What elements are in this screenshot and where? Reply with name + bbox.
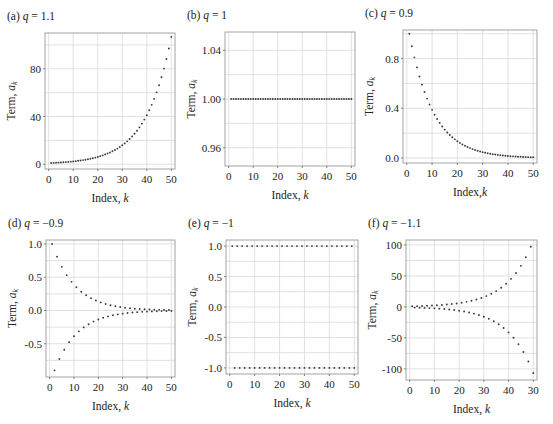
- x-tick-label: 30: [117, 173, 129, 185]
- x-axis-label: Index, k: [91, 192, 129, 205]
- x-tick-label: 30: [528, 384, 540, 396]
- x-tick-label: 20: [93, 381, 105, 393]
- x-tick-label: 10: [68, 381, 80, 393]
- x-tick-label: 0: [47, 381, 53, 393]
- y-tick-label: 80: [30, 63, 42, 75]
- x-axis-label: Index, k: [271, 189, 309, 202]
- y-tick-label: 100: [386, 239, 403, 251]
- panel-d: (d) q = −0.901020304050-0.50.00.51.0Inde…: [6, 217, 177, 413]
- x-tick-label: 0: [46, 173, 52, 185]
- x-tick-label: 30: [117, 381, 129, 393]
- x-tick-label: 50: [528, 167, 540, 179]
- x-tick-label: 40: [321, 170, 333, 182]
- y-tick-label: 0.8: [385, 53, 399, 65]
- y-tick-label: 0.0: [385, 152, 399, 164]
- y-tick-label: 0.5: [208, 271, 222, 283]
- y-axis-label: Term, ak: [6, 288, 20, 328]
- x-tick-label: 30: [477, 167, 489, 179]
- y-tick-label: 1.0: [208, 240, 222, 252]
- x-tick-label: 30: [297, 170, 309, 182]
- x-tick-label: 10: [427, 167, 439, 179]
- x-tick-label: 0: [226, 170, 232, 182]
- y-tick-label: -50: [387, 332, 402, 344]
- x-tick-label: 10: [429, 384, 441, 396]
- x-tick-label: 10: [249, 378, 261, 390]
- x-tick-label: 30: [478, 384, 490, 396]
- x-tick-label: 40: [141, 173, 153, 185]
- y-tick-label: 50: [391, 270, 403, 282]
- y-tick-label: 1.0: [28, 238, 42, 250]
- x-tick-label: 0: [227, 378, 233, 390]
- x-tick-label: 10: [248, 170, 260, 182]
- y-tick-label: 0.5: [28, 271, 42, 283]
- y-axis-label: Term, ak: [363, 76, 377, 116]
- x-tick-label: 40: [502, 167, 514, 179]
- x-tick-label: 40: [503, 384, 515, 396]
- y-axis-label: Term, ak: [186, 287, 200, 327]
- panel-b: (b) q = 1010203040500.961.001.04Index, k…: [185, 9, 357, 202]
- x-tick-label: 10: [68, 173, 80, 185]
- panel-title: (c) q = 0.9: [365, 7, 413, 20]
- geometric-sequence-figure: (a) q = 1.10102030405004080Index, kTerm,…: [0, 0, 553, 424]
- x-tick-label: 50: [166, 381, 178, 393]
- x-tick-label: 30: [299, 378, 311, 390]
- y-tick-label: -1.0: [205, 362, 223, 374]
- x-axis-label: Index, k: [92, 400, 130, 413]
- x-axis-label: Index, k: [273, 397, 311, 410]
- plot-area: [45, 33, 175, 169]
- x-tick-label: 50: [166, 173, 178, 185]
- plot-area: [403, 30, 537, 163]
- panel-a: (a) q = 1.10102030405004080Index, kTerm,…: [5, 10, 177, 205]
- y-tick-label: 0.0: [28, 304, 42, 316]
- panel-title: (f) q = −1.1: [368, 217, 421, 230]
- x-axis-label: Index, k: [453, 403, 491, 416]
- y-axis-label: Term, ak: [185, 79, 199, 119]
- y-tick-label: 0.96: [202, 142, 222, 154]
- x-tick-label: 20: [274, 378, 286, 390]
- panel-title: (d) q = −0.9: [8, 217, 63, 230]
- panel-e: (e) q = −101020304050-1.0-0.50.00.51.0In…: [186, 217, 360, 410]
- y-tick-label: 0.4: [385, 102, 399, 114]
- x-tick-label: 40: [324, 378, 336, 390]
- panel-title: (b) q = 1: [187, 9, 227, 22]
- x-tick-label: 20: [454, 384, 466, 396]
- x-tick-label: 20: [452, 167, 464, 179]
- y-tick-label: -100: [382, 363, 403, 375]
- panel-f: (f) q = −1.101020304030-100-50050100Inde…: [366, 217, 539, 416]
- x-axis-label: Index,k: [453, 186, 488, 199]
- y-tick-label: 1.00: [202, 93, 222, 105]
- x-tick-label: 0: [407, 384, 413, 396]
- panel-title: (e) q = −1: [188, 217, 234, 230]
- y-tick-label: 0: [397, 301, 403, 313]
- y-tick-label: 0: [36, 158, 42, 170]
- y-tick-label: 40: [30, 111, 42, 123]
- y-tick-label: -0.5: [205, 331, 223, 343]
- y-tick-label: 1.04: [202, 44, 222, 56]
- x-tick-label: 40: [142, 381, 154, 393]
- panel-title: (a) q = 1.1: [7, 10, 55, 23]
- x-tick-label: 0: [404, 167, 410, 179]
- x-tick-label: 20: [272, 170, 284, 182]
- y-axis-label: Term, ak: [366, 290, 380, 330]
- x-tick-label: 50: [346, 170, 358, 182]
- y-tick-label: 0.0: [208, 301, 222, 313]
- panel-c: (c) q = 0.9010203040500.00.40.8Index,kTe…: [363, 7, 539, 199]
- x-tick-label: 20: [92, 173, 104, 185]
- y-tick-label: -0.5: [25, 338, 43, 350]
- x-tick-label: 50: [349, 378, 361, 390]
- y-axis-label: Term, ak: [5, 81, 19, 121]
- plot-area: [406, 240, 537, 380]
